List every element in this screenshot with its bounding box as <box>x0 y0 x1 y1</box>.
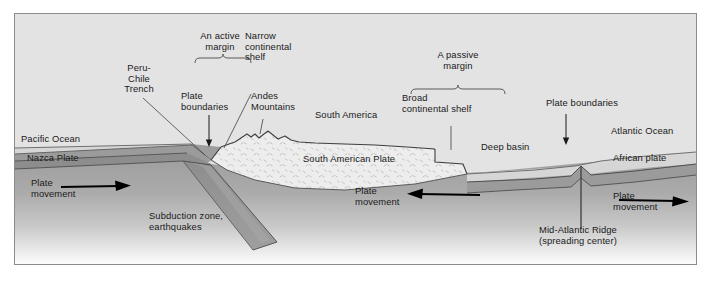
label-nazca-plate: Nazca Plate <box>27 153 79 164</box>
label-plate-boundaries-left: Plate boundaries <box>181 91 251 112</box>
label-deep-basin: Deep basin <box>481 142 529 153</box>
label-african-plate: African plate <box>613 153 666 164</box>
label-plate-movement-left: Plate movement <box>31 178 93 199</box>
label-south-america: South America <box>315 110 377 121</box>
label-subduction-zone: Subduction zone, earthquakes <box>149 211 259 232</box>
label-a-passive-margin: A passive margin <box>419 50 497 71</box>
label-mid-atlantic-ridge: Mid-Atlantic Ridge (spreading center) <box>539 225 679 246</box>
label-plate-boundaries-right: Plate boundaries <box>546 98 618 109</box>
label-pacific-ocean: Pacific Ocean <box>21 134 80 145</box>
label-peru-chile-trench: Peru- Chile Trench <box>111 63 167 95</box>
label-plate-movement-center: Plate movement <box>355 186 417 207</box>
figure-canvas: Peru- Chile Trench An active margin Narr… <box>0 0 711 291</box>
diagram-frame: Peru- Chile Trench An active margin Narr… <box>14 13 697 265</box>
label-andes-mountains: Andes Mountains <box>251 91 321 112</box>
label-south-american-plate: South American Plate <box>303 154 395 165</box>
label-narrow-continental-shelf: Narrow continental shelf <box>245 31 323 63</box>
label-plate-movement-right: Plate movement <box>613 191 675 212</box>
label-broad-continental-shelf: Broad continental shelf <box>402 93 502 114</box>
label-atlantic-ocean: Atlantic Ocean <box>611 126 673 137</box>
